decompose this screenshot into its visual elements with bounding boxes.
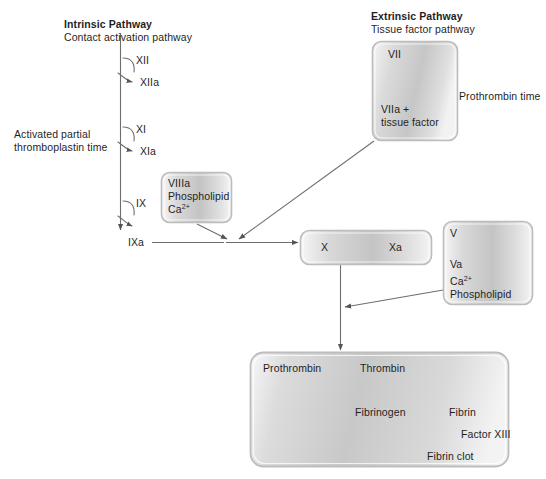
- tenase-calcium-label: Ca2+: [168, 203, 190, 216]
- extrinsic-pathway-subtitle: Tissue factor pathway: [371, 23, 475, 36]
- factor-viiia-label: VIIIa: [168, 177, 190, 190]
- arrow-extrinsic-to-tenase: [239, 141, 374, 239]
- tenase-calcium-symbol: Ca: [168, 203, 182, 215]
- prothrombin-time-label: Prothrombin time: [459, 90, 541, 103]
- factor-xa-label: Xa: [389, 241, 402, 254]
- curve-ix-to-ixa: [123, 201, 134, 215]
- fibrinogen-label: Fibrinogen: [355, 406, 406, 419]
- factor-viia-label-line1: VIIa +: [381, 103, 409, 116]
- prothrombinase-phospholipid-label: Phospholipid: [450, 288, 511, 301]
- tissue-factor-label: tissue factor: [381, 116, 439, 129]
- prothrombinase-calcium-symbol: Ca: [450, 275, 464, 287]
- factor-x-label: X: [321, 241, 328, 254]
- factor-ix-label: IX: [136, 197, 146, 210]
- factor-ixa-label: IXa: [128, 236, 144, 249]
- arrow-viiia-to-tenase: [197, 224, 227, 239]
- intrinsic-pathway-subtitle: Contact activation pathway: [64, 31, 192, 44]
- factor-xi-label: XI: [136, 123, 146, 136]
- factor-xiii-label: Factor XIII: [461, 428, 511, 441]
- aptt-label-line1: Activated partial: [14, 128, 90, 141]
- factor-v-label: V: [450, 227, 457, 240]
- curve-xi-to-xia: [123, 127, 134, 141]
- factor-xii-label: XII: [136, 54, 149, 67]
- curve-xii-to-xiia: [123, 58, 134, 72]
- tenase-phospholipid-label: Phospholipid: [168, 190, 229, 203]
- thrombin-label: Thrombin: [360, 362, 405, 375]
- coagulation-cascade-diagram: Intrinsic Pathway Contact activation pat…: [0, 0, 546, 479]
- factor-xia-label: XIa: [140, 145, 156, 158]
- fibrin-label: Fibrin: [449, 406, 476, 419]
- extrinsic-pathway-title: Extrinsic Pathway: [371, 10, 463, 23]
- factor-vii-label: VII: [388, 48, 401, 61]
- aptt-label-line2: thromboplastin time: [14, 141, 108, 154]
- fibrin-clot-label: Fibrin clot: [427, 450, 474, 463]
- prothrombin-label: Prothrombin: [263, 362, 321, 375]
- intrinsic-pathway-title: Intrinsic Pathway: [64, 18, 152, 31]
- tenase-calcium-charge: 2+: [182, 203, 190, 211]
- arrow-prothrombinase-to-common: [345, 289, 449, 307]
- prothrombinase-calcium-charge: 2+: [464, 275, 472, 283]
- prothrombinase-calcium-label: Ca2+: [450, 275, 472, 288]
- factor-va-label: Va: [450, 258, 462, 271]
- factor-xiia-label: XIIa: [140, 76, 159, 89]
